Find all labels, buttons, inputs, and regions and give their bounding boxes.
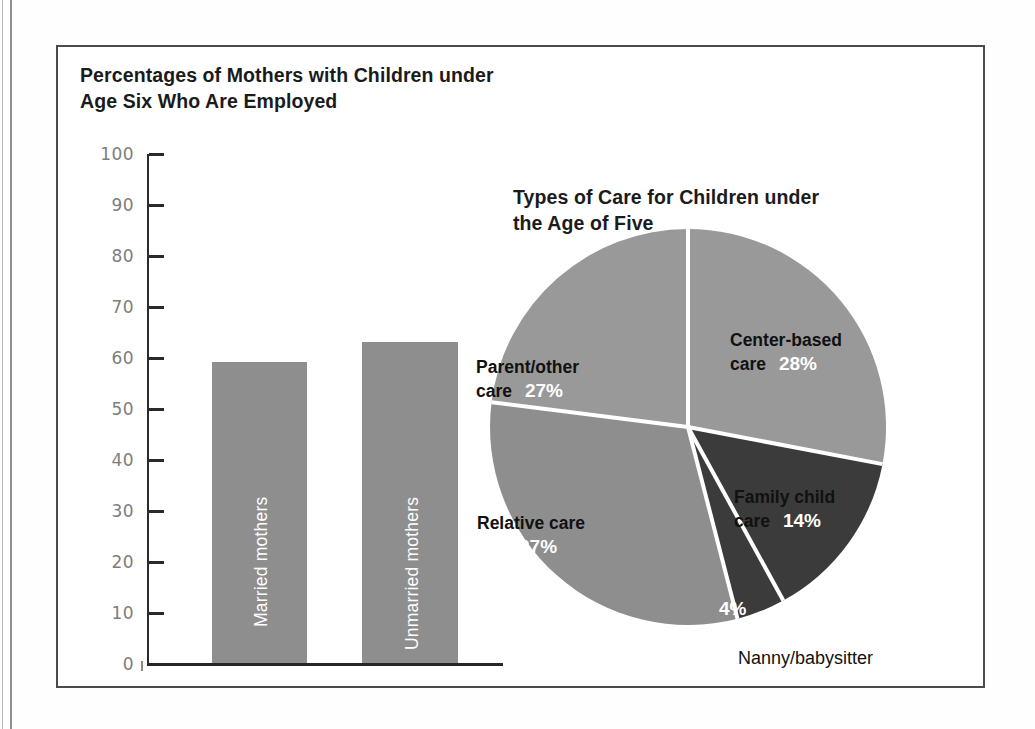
pie-pct-nanny-babysitter: 4% [719,598,746,620]
pie-chart-plot [468,207,908,647]
pie-label-parent-other-care-line2: care [476,381,512,401]
pie-label-family-child-care: Family child care 14% [734,487,835,533]
page-scan-edge-outer [2,0,3,729]
pie-pct-center-based-care: 28% [779,353,817,374]
tick-mark-30 [149,510,164,513]
tick-mark-20 [149,561,164,564]
pie-pct-parent-other-care: 27% [525,380,563,401]
pie-label-center-based-care-line1: Center-based [730,330,842,350]
pie-label-family-child-care-line2: care [734,511,770,531]
pie-label-nanny-babysitter: Nanny/babysitter [738,648,873,669]
tick-label-70: 70 [84,297,134,317]
bar-label-married-mothers: Married mothers [251,497,272,627]
tick-label-50: 50 [84,399,134,419]
pie-label-parent-other-care-line1: Parent/other [476,357,579,377]
tick-mark-40 [149,459,164,462]
pie-label-family-child-care-line1: Family child [734,487,835,507]
tick-mark-90 [149,204,164,207]
pie-pct-family-child-care: 14% [783,510,821,531]
tick-mark-70 [149,306,164,309]
tick-label-0: 0 [84,654,134,674]
page-scan-edge-inner [10,0,12,729]
bar-label-unmarried-mothers: Unmarried mothers [402,497,423,650]
tick-label-30: 30 [84,501,134,521]
pie-pct-relative-care: 27% [519,536,557,557]
tick-mark-100 [149,153,164,156]
tick-mark-50 [149,408,164,411]
tick-label-20: 20 [84,552,134,572]
pie-label-relative-care: Relative care 27% [477,513,585,559]
tick-mark-10 [149,612,164,615]
tick-label-10: 10 [84,603,134,623]
tick-label-80: 80 [84,246,134,266]
tick-mark-80 [149,255,164,258]
tick-label-60: 60 [84,348,134,368]
figure-frame: Percentages of Mothers with Children und… [56,45,985,688]
tick-label-40: 40 [84,450,134,470]
bar-x-axis-baseline [147,663,503,666]
pie-label-center-based-care: Center-based care 28% [730,330,842,376]
bar-zero-tick [141,661,152,671]
tick-label-100: 100 [84,144,134,164]
tick-label-90: 90 [84,195,134,215]
pie-label-relative-care-line1: Relative care [477,513,585,533]
pie-label-parent-other-care: Parent/other care 27% [476,357,579,403]
pie-label-center-based-care-line2: care [730,354,766,374]
tick-mark-60 [149,357,164,360]
